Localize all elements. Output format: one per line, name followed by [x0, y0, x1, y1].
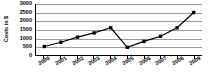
y-axis-title-label: Costs in $: [4, 15, 10, 41]
y-tick-label: 1500: [20, 27, 32, 33]
data-point-marker: [175, 26, 178, 29]
y-tick-label: 2500: [20, 10, 32, 16]
x-axis-tick-labels: 2000200120022003200420052006200720082009: [35, 59, 202, 76]
data-point-marker: [126, 46, 129, 49]
line-chart: Costs in $ 050010001500200025003000 2000…: [0, 0, 210, 76]
y-axis-title: Costs in $: [0, 0, 13, 57]
data-point-marker: [109, 26, 112, 29]
data-point-marker: [59, 41, 62, 44]
data-point-marker: [159, 35, 162, 38]
y-tick-label: 1000: [20, 36, 32, 42]
y-tick-label: 500: [23, 45, 32, 51]
data-point-marker: [92, 31, 95, 34]
y-tick-label: 2000: [20, 19, 32, 25]
y-tick-label: 3000: [20, 1, 32, 7]
y-tick-label: 0: [29, 53, 32, 59]
data-point-marker: [142, 40, 145, 43]
data-point-marker: [192, 11, 195, 14]
data-point-marker: [43, 45, 46, 48]
data-point-marker: [76, 35, 79, 38]
series-line: [44, 13, 193, 48]
data-series-costs: [36, 4, 202, 55]
y-axis-tick-labels: 050010001500200025003000: [13, 4, 33, 56]
plot-area: [35, 4, 202, 56]
